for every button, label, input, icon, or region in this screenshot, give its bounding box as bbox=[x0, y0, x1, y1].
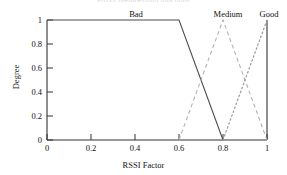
series-line-bad bbox=[47, 20, 223, 140]
series-line-medium bbox=[179, 20, 267, 140]
x-tick-marks bbox=[47, 134, 267, 140]
y-tick-label-0.8: 0.8 bbox=[20, 40, 42, 49]
plot-canvas bbox=[0, 0, 287, 175]
x-tick-label-0: 0 bbox=[45, 144, 49, 153]
x-tick-label-0.8: 0.8 bbox=[218, 144, 229, 153]
x-tick-label-1: 1 bbox=[265, 144, 269, 153]
series-label-medium: Medium bbox=[214, 9, 243, 19]
y-tick-marks bbox=[47, 20, 53, 140]
y-tick-label-0.6: 0.6 bbox=[20, 64, 42, 73]
x-axis-title: RSSI Factor bbox=[0, 160, 287, 170]
y-axis-title: Degree bbox=[11, 47, 21, 107]
x-tick-label-0.4: 0.4 bbox=[130, 144, 141, 153]
x-tick-label-0.6: 0.6 bbox=[174, 144, 185, 153]
chart-figure: Fuzzy membership functions bbox=[0, 0, 287, 175]
series-label-bad: Bad bbox=[129, 9, 143, 19]
y-tick-label-1: 1 bbox=[20, 16, 42, 25]
y-tick-label-0.2: 0.2 bbox=[20, 112, 42, 121]
x-tick-label-0.2: 0.2 bbox=[86, 144, 97, 153]
y-tick-label-0.4: 0.4 bbox=[20, 88, 42, 97]
series-line-good bbox=[223, 20, 267, 140]
series-label-good: Good bbox=[260, 9, 279, 19]
axis-lines bbox=[47, 20, 267, 140]
y-tick-label-0: 0 bbox=[20, 136, 42, 145]
